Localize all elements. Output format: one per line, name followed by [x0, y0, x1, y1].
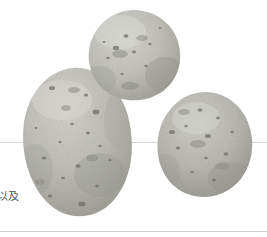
potato-photograph: [0, 0, 267, 237]
caption-text: 以及: [0, 190, 19, 203]
potato-right: [152, 92, 252, 197]
page-canvas: 以及: [0, 0, 267, 237]
